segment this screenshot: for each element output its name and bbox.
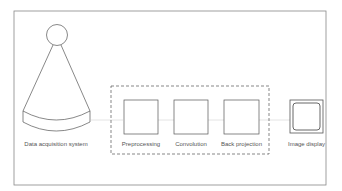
- diagram-canvas: Data acquisition system Preprocessing Co…: [0, 0, 342, 191]
- back-projection-label: Back projection: [221, 141, 262, 147]
- convolution-box: [174, 100, 208, 134]
- back-projection-box: [224, 100, 259, 134]
- acquisition-label: Data acquisition system: [24, 141, 87, 147]
- preprocessing-label: Preprocessing: [122, 141, 160, 147]
- acquisition-system-icon: [23, 25, 90, 132]
- preprocessing-box: [124, 100, 158, 134]
- image-display-label: Image display: [288, 141, 325, 147]
- monitor-icon: [290, 100, 323, 133]
- convolution-label: Convolution: [175, 141, 207, 147]
